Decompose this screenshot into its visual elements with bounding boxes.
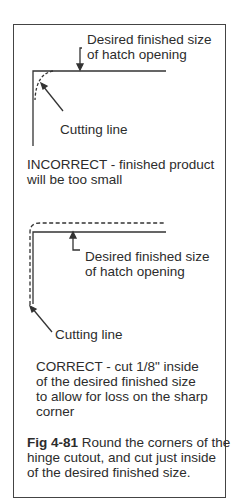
- correct-caption-1: CORRECT - cut 1/8" inside: [36, 359, 199, 374]
- arrow-head-icon: [70, 232, 76, 238]
- correct-cutting-leader: [32, 308, 52, 332]
- correct-caption-3: to allow for loss on the sharp: [36, 389, 208, 404]
- incorrect-caption-2: will be too small: [27, 172, 122, 187]
- arrow-head-icon: [77, 64, 83, 70]
- correct-cutting-label: Cutting line: [55, 327, 123, 342]
- correct-caption-4: corner: [36, 404, 74, 419]
- correct-caption-2: of the desired finished size: [36, 374, 196, 389]
- incorrect-cutting-label: Cutting line: [60, 122, 128, 137]
- figure-caption-2: hinge cutout, and cut just inside: [27, 450, 216, 465]
- incorrect-desired-label-1: Desired finished size: [87, 32, 212, 47]
- figure-number: Fig 4-81: [27, 435, 78, 450]
- arrow-head-icon: [41, 83, 47, 89]
- figure-caption-1: Fig 4-81 Round the corners of the: [27, 435, 230, 450]
- incorrect-desired-label-2: of hatch opening: [87, 47, 187, 62]
- incorrect-cutting-leader: [43, 86, 63, 111]
- incorrect-caption-1: INCORRECT - finished product: [27, 157, 214, 172]
- correct-desired-label-2: of hatch opening: [85, 264, 185, 279]
- correct-desired-label-1: Desired finished size: [85, 249, 210, 264]
- figure-caption-3: of the desired finished size.: [27, 465, 191, 480]
